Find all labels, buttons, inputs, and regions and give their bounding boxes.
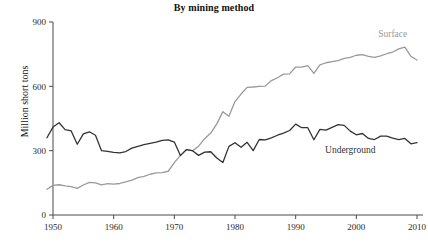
x-tick-label: 1980 bbox=[226, 222, 245, 232]
x-tick-label: 2000 bbox=[347, 222, 366, 232]
y-tick-label: 300 bbox=[33, 146, 47, 156]
series-label-surface: Surface bbox=[378, 29, 407, 39]
x-tick-label: 2010 bbox=[408, 222, 427, 232]
x-tick-label: 1960 bbox=[105, 222, 124, 232]
x-tick-label: 1970 bbox=[165, 222, 184, 232]
series-group bbox=[47, 47, 417, 189]
series-label-underground: Underground bbox=[325, 145, 376, 155]
axes-group: 03006009001950196019701980199020002010 bbox=[33, 17, 427, 232]
chart-figure: By mining method Million short tons 0300… bbox=[0, 0, 428, 250]
series-line-underground bbox=[47, 123, 417, 163]
y-tick-label: 900 bbox=[33, 17, 47, 27]
plot-area: 03006009001950196019701980199020002010 S… bbox=[0, 0, 428, 250]
y-tick-label: 600 bbox=[33, 82, 47, 92]
x-tick-label: 1990 bbox=[287, 222, 306, 232]
series-line-surface bbox=[47, 47, 417, 189]
y-tick-label: 0 bbox=[42, 210, 47, 220]
x-tick-label: 1950 bbox=[44, 222, 63, 232]
